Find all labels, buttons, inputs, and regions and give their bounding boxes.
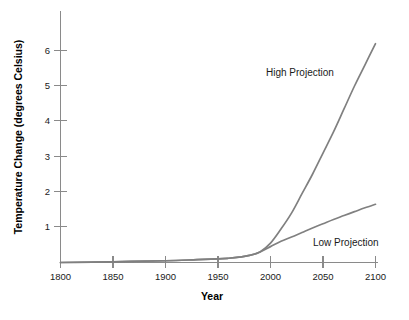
x-tick-label-2000: 2000 <box>260 271 281 282</box>
y-axis-tick-labels: 6 5 4 3 2 1 <box>45 45 50 232</box>
series-annotation-high-projection: High Projection <box>266 67 334 78</box>
y-tick-label-4: 4 <box>45 115 50 126</box>
temperature-projection-chart: 6 5 4 3 2 1 1800 1850 1900 1950 2000 205… <box>0 0 409 320</box>
y-axis-title: Temperature Change (degrees Celsius) <box>12 40 24 235</box>
series-annotation-low-projection: Low Projection <box>313 237 379 248</box>
x-tick-label-1850: 1850 <box>102 271 123 282</box>
x-tick-label-1900: 1900 <box>155 271 176 282</box>
x-axis-tick-labels: 1800 1850 1900 1950 2000 2050 2100 <box>50 271 386 282</box>
x-axis-title: Year <box>201 290 223 302</box>
x-tick-label-2050: 2050 <box>312 271 333 282</box>
y-tick-label-5: 5 <box>45 80 50 91</box>
series-line-low-projection <box>61 204 376 262</box>
x-tick-label-1950: 1950 <box>207 271 228 282</box>
chart-canvas: 6 5 4 3 2 1 1800 1850 1900 1950 2000 205… <box>0 0 409 320</box>
y-tick-label-6: 6 <box>45 45 50 56</box>
x-tick-label-2100: 2100 <box>365 271 386 282</box>
y-tick-label-3: 3 <box>45 151 50 162</box>
x-tick-label-1800: 1800 <box>50 271 71 282</box>
y-tick-label-2: 2 <box>45 186 50 197</box>
y-tick-label-1: 1 <box>45 221 50 232</box>
